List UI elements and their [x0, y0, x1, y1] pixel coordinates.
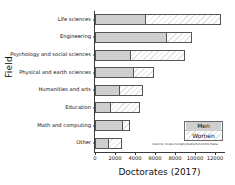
bar-segment-men[interactable] — [95, 67, 134, 78]
x-tick-label: 10000 — [187, 155, 204, 161]
bar-row: Psychology and social sciences — [95, 50, 224, 61]
category-label: Engineering — [60, 35, 91, 40]
category-label: Physical and earth sciences — [19, 70, 91, 75]
legend-label-women: Women — [192, 133, 215, 139]
category-label: Other — [76, 141, 91, 146]
stacked-bar-chart: Field Life sciencesEngineeringPsychology… — [0, 0, 235, 185]
bar-row: Humanities and arts — [95, 85, 224, 96]
legend-swatch-men: Men — [186, 122, 221, 131]
bar-segment-women[interactable] — [110, 102, 140, 113]
x-axis-ticks: 020004000600080001000012000 — [95, 152, 224, 166]
x-tick-label: 6000 — [148, 155, 161, 161]
category-label: Psychology and social sciences — [10, 52, 91, 57]
bar-segment-women[interactable] — [130, 50, 185, 61]
bar-segment-women[interactable] — [108, 138, 122, 149]
legend-swatch-women: Women — [186, 131, 221, 140]
bar-segment-women[interactable] — [119, 85, 143, 96]
chart-legend[interactable]: Men Women — [184, 121, 223, 141]
category-label: Life sciences — [58, 17, 91, 22]
bar-segment-men[interactable] — [95, 85, 120, 96]
legend-label-men: Men — [197, 123, 210, 129]
source-note: Source: ncses.nsf.gov/pubs/nsf19301/data — [146, 143, 224, 146]
bar-segment-men[interactable] — [95, 14, 146, 25]
x-axis-label: Doctorates (2017) — [95, 167, 224, 177]
bar-segment-women[interactable] — [145, 14, 221, 25]
legend-item-men[interactable]: Men — [185, 122, 222, 131]
bar-segment-women[interactable] — [133, 67, 154, 78]
x-tick-label: 2000 — [108, 155, 121, 161]
category-label: Humanities and arts — [38, 88, 91, 93]
bar-row: Life sciences — [95, 14, 224, 25]
x-tick-label: 0 — [93, 155, 96, 161]
category-label: Education — [65, 105, 91, 110]
bar-segment-men[interactable] — [95, 50, 131, 61]
x-tick-label: 4000 — [128, 155, 141, 161]
x-tick-label: 12000 — [207, 155, 224, 161]
bar-segment-women[interactable] — [122, 120, 130, 131]
category-label: Math and computing — [37, 123, 91, 128]
bar-segment-men[interactable] — [95, 102, 111, 113]
bar-segment-men[interactable] — [95, 120, 123, 131]
bar-row: Engineering — [95, 32, 224, 43]
bar-segment-men[interactable] — [95, 32, 167, 43]
bar-segment-men[interactable] — [95, 138, 109, 149]
bar-segment-women[interactable] — [166, 32, 192, 43]
y-axis-label: Field — [4, 42, 14, 92]
x-tick-label: 8000 — [168, 155, 181, 161]
legend-item-women[interactable]: Women — [185, 131, 222, 140]
bar-row: Education — [95, 102, 224, 113]
bar-row: Physical and earth sciences — [95, 67, 224, 78]
